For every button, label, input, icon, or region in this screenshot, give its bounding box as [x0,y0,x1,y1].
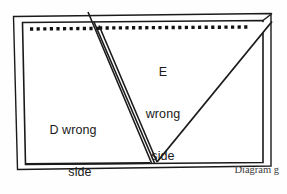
label-piece-e-line1: E [136,65,190,79]
house-block-diagram: D wrong side E wrong side Diagram g – ma… [0,0,287,194]
diagram-caption: Diagram g – making the house block [191,139,279,194]
label-piece-d: D wrong side [34,95,112,194]
label-piece-d-line2: side [34,165,112,179]
label-piece-d-line1: D wrong [34,123,112,137]
label-piece-e: E wrong side [136,37,190,191]
diagram-caption-line1: Diagram g [191,164,279,177]
label-piece-e-line2: wrong [136,107,190,121]
label-piece-e-line3: side [136,149,190,163]
dotted-stitch-line-over-triangle [99,27,250,28]
